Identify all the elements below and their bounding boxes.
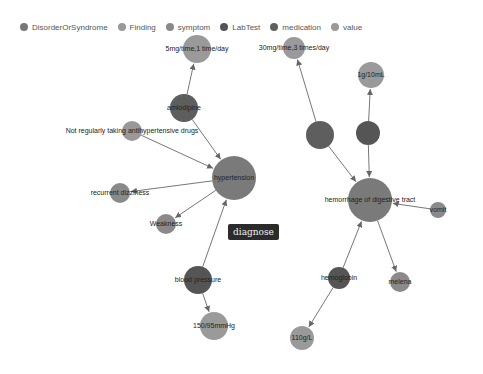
node-label: hemoglobin — [321, 274, 357, 282]
node-label: hemorrhage of digestive tract — [325, 196, 416, 204]
node-label: vomit — [430, 206, 447, 213]
node-dizziness[interactable]: recurrent dizziness — [91, 183, 150, 203]
node-amlodipine[interactable]: amlodipine — [167, 94, 201, 122]
node-label: amlodipine — [167, 104, 201, 112]
edge-med2-dose2[interactable] — [297, 59, 316, 121]
node-circle[interactable] — [306, 121, 334, 149]
node-label: Weakness — [150, 220, 183, 227]
node-label: melena — [389, 278, 412, 285]
node-hypertension[interactable]: hypertension — [212, 156, 256, 200]
node-label: blood pressure — [175, 276, 221, 284]
node-hemorrhage[interactable]: hemorrhage of digestive tract — [325, 178, 416, 222]
edge-hemoglobin-hemorrhage[interactable] — [343, 221, 361, 267]
node-hemoglobin[interactable]: hemoglobin — [321, 267, 357, 289]
edge-bp-bpval[interactable] — [203, 293, 209, 312]
edge-symptom2-hemorrhage[interactable] — [393, 203, 430, 208]
edge-hemorrhage-melena[interactable] — [378, 221, 397, 272]
edge-med3-dose3[interactable] — [369, 89, 371, 121]
edge-nonadherence-hypertension[interactable] — [141, 135, 213, 168]
edge-med3-hemorrhage[interactable] — [368, 145, 369, 177]
node-dose2[interactable]: 30mg/time,3 times/day — [259, 37, 330, 59]
node-circle[interactable] — [356, 121, 380, 145]
node-bp[interactable]: blood pressure — [175, 266, 221, 294]
node-label: 30mg/time,3 times/day — [259, 44, 330, 52]
node-label: Not regularly taking antihypertensive dr… — [66, 127, 199, 135]
edge-bp-hypertension[interactable] — [203, 200, 227, 267]
node-weakness[interactable]: Weakness — [150, 214, 183, 234]
nodes: hypertensionamlodipine5mg/time,1 time/da… — [66, 35, 447, 350]
knowledge-graph[interactable]: hypertensionamlodipine5mg/time,1 time/da… — [0, 0, 483, 374]
node-symptom2[interactable]: vomit — [430, 202, 447, 218]
node-label: 110g/L — [292, 334, 313, 342]
edge-amlodipine-dose1[interactable] — [187, 64, 194, 95]
edge-med2-hemorrhage[interactable] — [329, 146, 356, 182]
edge-tooltip: diagnose — [228, 224, 279, 240]
node-label: 1g/10mL — [357, 71, 384, 79]
node-label: recurrent dizziness — [91, 189, 150, 196]
edge-amlodipine-hypertension[interactable] — [192, 119, 220, 159]
node-dose1[interactable]: 5mg/time,1 time/day — [165, 35, 229, 63]
node-bpval[interactable]: 150/95mmHg — [193, 312, 235, 340]
edge-hypertension-weakness[interactable] — [175, 190, 216, 218]
node-label: 150/95mmHg — [193, 322, 235, 330]
node-label: 5mg/time,1 time/day — [165, 45, 229, 53]
node-med3[interactable] — [356, 121, 380, 145]
node-hbval[interactable]: 110g/L — [290, 326, 314, 350]
node-label: hypertension — [214, 174, 254, 182]
edge-hemoglobin-hbval[interactable] — [309, 287, 333, 327]
node-melena[interactable]: melena — [389, 272, 412, 292]
node-dose3[interactable]: 1g/10mL — [357, 62, 384, 88]
node-nonadherence[interactable]: Not regularly taking antihypertensive dr… — [66, 121, 199, 141]
node-med2[interactable] — [306, 121, 334, 149]
